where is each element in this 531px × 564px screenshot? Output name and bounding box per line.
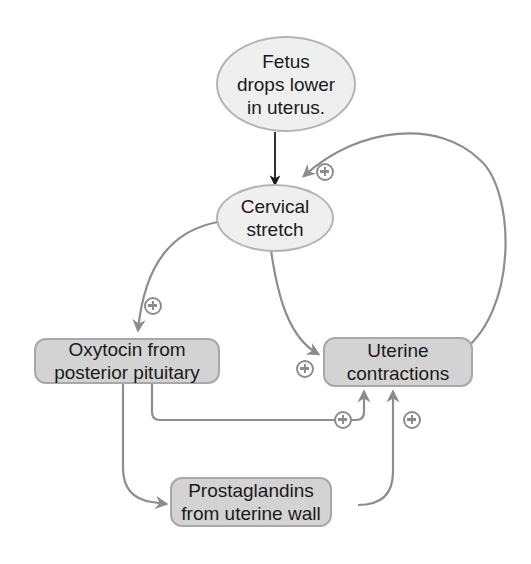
plus-sign-icon [296, 360, 314, 378]
node-fetus-drops-lower: Fetus drops lower in uterus. [216, 36, 356, 132]
plus-sign-icon [403, 411, 421, 429]
node-label-line: Uterine [347, 339, 449, 362]
arrow-oxytocin-to-uterine [152, 382, 364, 420]
node-label-line: Cervical [241, 195, 310, 218]
plus-sign-icon [144, 297, 162, 315]
node-label-line: Prostaglandins [181, 479, 320, 502]
node-label-line: posterior pituitary [54, 361, 200, 384]
arrow-oxytocin-to-prostaglandins [123, 382, 166, 504]
node-oxytocin: Oxytocin from posterior pituitary [34, 338, 220, 384]
plus-sign-icon [334, 411, 352, 429]
node-label-line: contractions [347, 362, 449, 385]
node-label-line: from uterine wall [181, 502, 320, 525]
node-uterine-contractions: Uterine contractions [323, 337, 473, 387]
arrow-uterine-to-cervical [304, 133, 506, 355]
node-label-line: in uterus. [237, 96, 335, 119]
node-cervical-stretch: Cervical stretch [216, 184, 334, 252]
node-label-line: Oxytocin from [54, 338, 200, 361]
node-prostaglandins: Prostaglandins from uterine wall [170, 477, 332, 527]
node-label-line: stretch [241, 218, 310, 241]
arrow-cervical-to-uterine [271, 250, 318, 354]
node-label-line: Fetus [237, 50, 335, 73]
plus-sign-icon [316, 163, 334, 181]
node-label-line: drops lower [237, 73, 335, 96]
